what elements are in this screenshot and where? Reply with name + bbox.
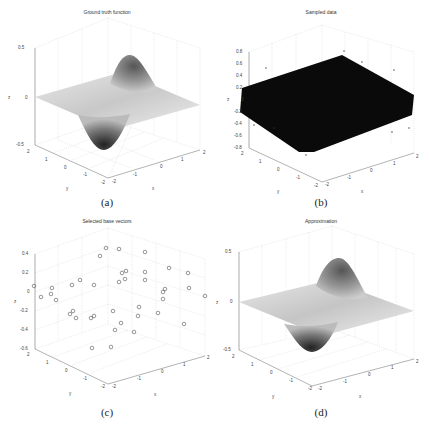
x-axis-label: x <box>154 392 156 397</box>
z-tick: -0.5 <box>16 142 24 147</box>
x-tick: 0 <box>161 369 164 374</box>
y-tick: 0 <box>65 368 68 373</box>
y-tick: 0 <box>64 165 67 170</box>
x-tick: -2 <box>318 386 322 391</box>
z-tick: -0.2 <box>234 109 242 114</box>
z-axis-label: z <box>227 97 229 102</box>
panel-c-base-vectors: Selected base vectors 0.4 0.2 0 -0.2 -0.… <box>0 214 214 428</box>
caption-c: (c) <box>0 406 214 418</box>
panel-b-sampled-data: Sampled data 0.8 0.6 0.4 0.2 0 -0.2 -0.4… <box>214 0 428 214</box>
x-axis-label: x <box>361 189 363 194</box>
y-tick: 1 <box>45 157 48 162</box>
y-tick: -2 <box>101 384 105 389</box>
surface-trough <box>284 322 338 352</box>
x-tick: 0 <box>370 168 373 173</box>
x-axis-label: x <box>359 394 361 399</box>
x-tick: 1 <box>183 362 186 367</box>
x-tick: 2 <box>416 359 419 364</box>
z-axis-label: z <box>8 95 10 100</box>
y-tick: 2 <box>27 149 30 154</box>
x-tick: 1 <box>393 161 396 166</box>
surface-trough <box>78 114 130 150</box>
x-axis-label: x <box>152 186 154 191</box>
y-axis-label: y <box>66 186 68 191</box>
z-tick: -0.4 <box>234 121 242 126</box>
z-tick: -0.2 <box>20 308 28 313</box>
y-tick: -1 <box>83 172 87 177</box>
y-tick: -1 <box>83 376 87 381</box>
plot-title: Sampled data <box>214 9 428 15</box>
base-vector-points <box>32 246 207 350</box>
z-tick: 0.4 <box>236 73 242 78</box>
x-tick: -2 <box>112 179 116 184</box>
z-tick: 0.8 <box>236 49 242 54</box>
z-tick: 0 <box>27 289 30 294</box>
z-axis-label: z <box>216 300 218 305</box>
surface-peak <box>110 55 158 92</box>
y-tick: 1 <box>46 360 49 365</box>
z-tick: -0.6 <box>20 346 28 351</box>
y-tick: -1 <box>289 378 293 383</box>
z-tick: -0.8 <box>234 145 242 150</box>
caption-d: (d) <box>214 406 428 418</box>
z-tick: -0.6 <box>234 133 242 138</box>
z-tick: 0.2 <box>22 270 28 275</box>
z-tick: 0 <box>25 95 28 100</box>
x-tick: -1 <box>347 175 351 180</box>
scatter-plot-b <box>214 0 428 214</box>
plot-title: Selected base vectors <box>0 218 214 224</box>
x-tick: -1 <box>343 379 347 384</box>
z-tick: 0 <box>241 97 244 102</box>
z-tick: 0.6 <box>236 61 242 66</box>
z-tick: 0.5 <box>225 249 231 254</box>
panel-a-ground-truth: Ground truth function 0.5 0 -0.5 z 2 1 0… <box>0 0 214 214</box>
y-axis-label: y <box>69 391 71 396</box>
caption-a: (a) <box>0 196 214 208</box>
x-tick: 1 <box>181 157 184 162</box>
y-tick: -2 <box>308 386 312 391</box>
x-tick: 2 <box>203 150 206 155</box>
x-tick: -2 <box>112 384 116 389</box>
y-tick: 2 <box>27 352 30 357</box>
y-tick: -1 <box>296 175 300 180</box>
x-tick: 0 <box>368 372 371 377</box>
surface-plot-d <box>214 214 428 428</box>
z-axis-label: z <box>14 299 16 304</box>
y-axis-label: y <box>277 189 279 194</box>
y-axis-label: y <box>272 394 274 399</box>
x-tick: -2 <box>325 182 329 187</box>
y-tick: 2 <box>232 354 235 359</box>
y-tick: -2 <box>101 180 105 185</box>
y-tick: 2 <box>241 151 244 156</box>
y-tick: -2 <box>314 183 318 188</box>
x-tick: -1 <box>137 376 141 381</box>
surface-plot-a <box>0 0 214 214</box>
x-tick: 2 <box>207 355 210 360</box>
sample-cloud <box>240 55 414 152</box>
y-tick: 0 <box>270 370 273 375</box>
caption-b: (b) <box>214 196 428 208</box>
panel-d-approximation: Approximation 0.5 0 -0.5 z 2 1 0 -1 -2 y… <box>214 214 428 428</box>
y-tick: 1 <box>259 159 262 164</box>
scatter-plot-c <box>0 214 214 428</box>
x-tick: 1 <box>391 365 394 370</box>
x-tick: 0 <box>160 164 163 169</box>
z-tick: 0.2 <box>236 85 242 90</box>
y-tick: 0 <box>277 167 280 172</box>
x-tick: -1 <box>133 172 137 177</box>
z-tick: 0 <box>230 299 233 304</box>
z-tick: -0.4 <box>20 327 28 332</box>
y-tick: 1 <box>251 362 254 367</box>
z-tick: 0.4 <box>22 251 28 256</box>
plot-title: Approximation <box>214 218 428 224</box>
z-tick: -0.5 <box>223 347 231 352</box>
z-tick: 0.5 <box>18 45 24 50</box>
plot-title: Ground truth function <box>0 9 214 15</box>
x-tick: 2 <box>416 154 419 159</box>
